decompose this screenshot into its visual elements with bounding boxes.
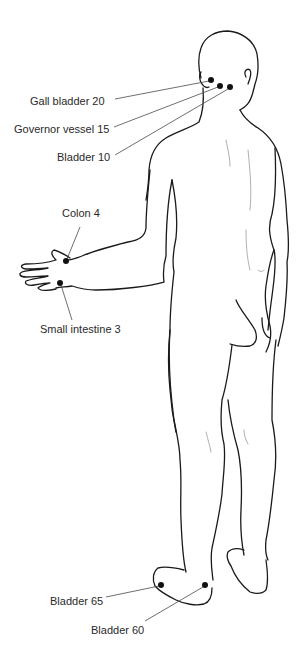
right-foot bbox=[227, 549, 267, 594]
leader-bladder-60 bbox=[145, 587, 203, 621]
point-gall-bladder-20 bbox=[208, 77, 214, 83]
label-colon-4: Colon 4 bbox=[62, 207, 100, 219]
point-bladder-60 bbox=[202, 582, 208, 588]
point-bladder-10 bbox=[227, 84, 233, 90]
calf-detail bbox=[206, 430, 248, 452]
shoulder-blade-detail bbox=[226, 140, 264, 272]
label-small-intestine-3: Small intestine 3 bbox=[40, 323, 121, 335]
left-leg-outer bbox=[169, 330, 186, 572]
spine-detail bbox=[246, 150, 251, 270]
leader-bladder-10 bbox=[115, 89, 228, 155]
point-bladder-65 bbox=[158, 582, 164, 588]
point-colon-4 bbox=[63, 258, 69, 264]
torso-right-side bbox=[265, 250, 274, 352]
torso-left-side bbox=[169, 180, 177, 432]
label-bladder-60: Bladder 60 bbox=[91, 624, 144, 636]
right-arm-inner bbox=[268, 148, 276, 330]
left-arm-lower bbox=[56, 180, 172, 290]
label-bladder-65: Bladder 65 bbox=[50, 595, 103, 607]
left-leg-inner bbox=[211, 345, 232, 580]
buttocks bbox=[230, 300, 270, 346]
label-governor-vessel-15: Governor vessel 15 bbox=[14, 123, 109, 135]
left-ear bbox=[200, 72, 209, 87]
point-governor-vessel-15 bbox=[217, 83, 223, 89]
right-ear bbox=[245, 69, 251, 84]
label-gall-bladder-20: Gall bladder 20 bbox=[30, 95, 105, 107]
point-small-intestine-3 bbox=[57, 280, 63, 286]
head-outline bbox=[199, 31, 258, 110]
neck-right-shoulder bbox=[240, 110, 289, 346]
right-leg-inner bbox=[228, 400, 244, 555]
leader-small-intestine-3 bbox=[61, 285, 72, 320]
leader-bladder-65 bbox=[106, 586, 159, 597]
label-bladder-10: Bladder 10 bbox=[57, 151, 110, 163]
leader-colon-4 bbox=[67, 227, 80, 259]
right-leg-outer bbox=[266, 340, 276, 560]
neck-left-shoulder bbox=[146, 88, 203, 200]
